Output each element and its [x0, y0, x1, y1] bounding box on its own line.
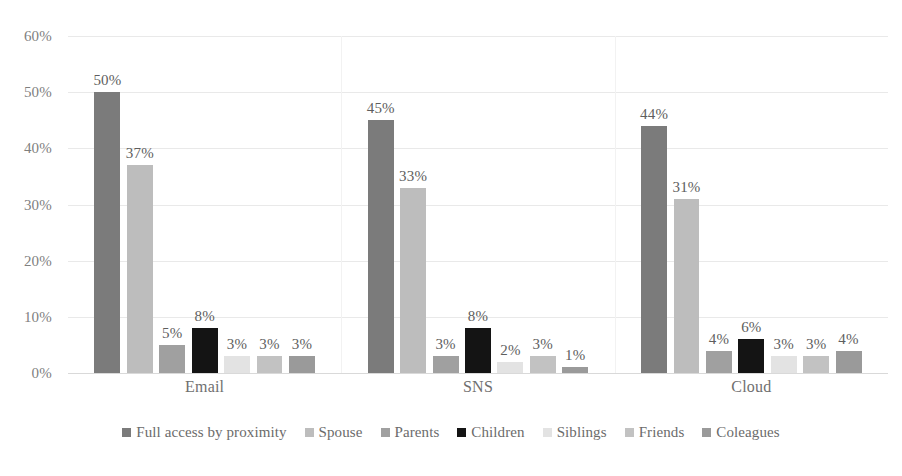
legend-item[interactable]: Friends	[625, 424, 685, 441]
x-tick-label: Cloud	[731, 378, 771, 396]
chart-legend: Full access by proximitySpouseParentsChi…	[0, 424, 902, 441]
bar-value-label: 5%	[162, 325, 182, 342]
x-tick-label: SNS	[463, 378, 493, 396]
legend-swatch-icon	[381, 428, 390, 437]
legend-swatch-icon	[457, 428, 466, 437]
bar	[127, 165, 153, 373]
legend-swatch-icon	[702, 428, 711, 437]
legend-label: Children	[471, 424, 524, 441]
bar-value-label: 3%	[806, 336, 826, 353]
legend-swatch-icon	[122, 428, 131, 437]
bar	[530, 356, 556, 373]
bar	[289, 356, 315, 373]
legend-label: Spouse	[319, 424, 363, 441]
bar	[159, 345, 185, 373]
gridline	[68, 373, 888, 374]
legend-label: Siblings	[557, 424, 607, 441]
y-tick-label: 30%	[24, 196, 52, 213]
y-tick-label: 40%	[24, 140, 52, 157]
x-axis-category-labels: EmailSNSCloud	[68, 378, 888, 404]
bar	[224, 356, 250, 373]
y-tick-label: 50%	[24, 84, 52, 101]
bar	[497, 362, 523, 373]
bar-value-label: 3%	[292, 336, 312, 353]
y-axis: 0%10%20%30%40%50%60%	[0, 36, 60, 373]
legend-item[interactable]: Parents	[381, 424, 440, 441]
legend-item[interactable]: Siblings	[543, 424, 607, 441]
legend-label: Friends	[639, 424, 685, 441]
bar-value-label: 8%	[468, 308, 488, 325]
legend-swatch-icon	[305, 428, 314, 437]
bar-chart: 0%10%20%30%40%50%60% 50%37%5%8%3%3%3%45%…	[0, 0, 902, 476]
bar	[433, 356, 459, 373]
bar-value-label: 3%	[227, 336, 247, 353]
bar	[641, 126, 667, 373]
legend-label: Full access by proximity	[136, 424, 286, 441]
y-tick-label: 20%	[24, 252, 52, 269]
legend-label: Parents	[395, 424, 440, 441]
y-tick-label: 0%	[32, 365, 52, 382]
legend-label: Coleagues	[716, 424, 779, 441]
bar-value-label: 4%	[709, 331, 729, 348]
bar	[836, 351, 862, 373]
bar	[674, 199, 700, 373]
bar	[706, 351, 732, 373]
bar-value-label: 2%	[500, 342, 520, 359]
plot-area: 50%37%5%8%3%3%3%45%33%3%8%2%3%1%44%31%4%…	[68, 36, 888, 373]
bar	[771, 356, 797, 373]
bar-value-label: 3%	[435, 336, 455, 353]
bar-value-label: 4%	[838, 331, 858, 348]
legend-swatch-icon	[543, 428, 552, 437]
bar	[400, 188, 426, 373]
bar	[368, 120, 394, 373]
bar-value-label: 31%	[672, 179, 700, 196]
bar-value-label: 6%	[741, 319, 761, 336]
bar	[192, 328, 218, 373]
bar	[465, 328, 491, 373]
bar-value-label: 8%	[194, 308, 214, 325]
bar	[738, 339, 764, 373]
bar-value-label: 44%	[640, 106, 668, 123]
bars-layer: 50%37%5%8%3%3%3%45%33%3%8%2%3%1%44%31%4%…	[68, 36, 888, 373]
legend-item[interactable]: Full access by proximity	[122, 424, 286, 441]
bar-value-label: 37%	[126, 145, 154, 162]
group-separator	[341, 36, 342, 373]
bar	[94, 92, 120, 373]
x-tick-label: Email	[185, 378, 224, 396]
legend-item[interactable]: Spouse	[305, 424, 363, 441]
bar-value-label: 1%	[565, 347, 585, 364]
bar	[257, 356, 283, 373]
bar-value-label: 45%	[367, 100, 395, 117]
legend-item[interactable]: Children	[457, 424, 524, 441]
y-tick-label: 10%	[24, 308, 52, 325]
y-tick-label: 60%	[24, 28, 52, 45]
bar-value-label: 3%	[533, 336, 553, 353]
bar-value-label: 3%	[774, 336, 794, 353]
bar	[562, 367, 588, 373]
bar-value-label: 50%	[93, 72, 121, 89]
bar-value-label: 3%	[259, 336, 279, 353]
bar-value-label: 33%	[399, 168, 427, 185]
group-separator	[615, 36, 616, 373]
legend-swatch-icon	[625, 428, 634, 437]
bar	[803, 356, 829, 373]
legend-item[interactable]: Coleagues	[702, 424, 779, 441]
